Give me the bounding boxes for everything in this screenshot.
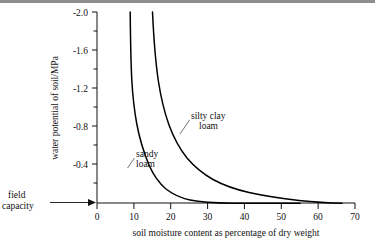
series-label-sandy-loam-line1: sandy <box>136 149 158 159</box>
y-tick-label-1: -1.6 <box>73 46 88 56</box>
field-capacity-arrow-head <box>88 199 96 206</box>
x-tick-label-6: 60 <box>313 212 323 222</box>
x-tick-label-2: 20 <box>166 212 176 222</box>
annotation-silty-clay-loam: silty clay loam <box>180 111 226 134</box>
y-tick-label-3: -0.8 <box>73 122 88 132</box>
leader-line-sandy-loam <box>128 158 135 168</box>
y-axis-minor-ticks <box>94 31 98 183</box>
y-axis-major-ticks <box>92 12 97 164</box>
series-label-silty-clay-line1: silty clay <box>191 111 226 121</box>
x-tick-label-3: 30 <box>203 212 213 222</box>
y-tick-label-4: -0.4 <box>73 160 88 170</box>
curve-sandy-loam <box>130 12 300 203</box>
y-tick-label-2: -1.2 <box>73 84 88 94</box>
soil-water-potential-chart: -2.0 -1.6 -1.2 -0.8 -0.4 0 10 20 30 40 5… <box>0 0 375 243</box>
x-tick-label-0: 0 <box>95 212 100 222</box>
leader-line-silty-clay <box>180 120 190 134</box>
figure-container: -2.0 -1.6 -1.2 -0.8 -0.4 0 10 20 30 40 5… <box>0 0 375 243</box>
y-axis-title: water potential of soil/MPa <box>50 55 60 159</box>
x-tick-label-1: 10 <box>129 212 139 222</box>
field-capacity-line1: field <box>8 190 26 200</box>
series-label-sandy-loam-line2: loam <box>136 159 156 169</box>
field-capacity-line2: capacity <box>2 201 34 211</box>
x-tick-label-5: 50 <box>277 212 287 222</box>
x-axis-ticks <box>97 203 355 209</box>
curve-silty-clay-loam <box>153 12 343 203</box>
x-tick-label-4: 40 <box>240 212 250 222</box>
x-axis-title: soil moisture content as percentage of d… <box>132 228 319 238</box>
annotation-sandy-loam: sandy loam <box>128 149 159 169</box>
y-tick-label-0: -2.0 <box>73 8 88 18</box>
x-tick-label-7: 70 <box>350 212 360 222</box>
annotation-field-capacity: field capacity <box>2 190 96 211</box>
series-label-silty-clay-line2: loam <box>199 121 219 131</box>
